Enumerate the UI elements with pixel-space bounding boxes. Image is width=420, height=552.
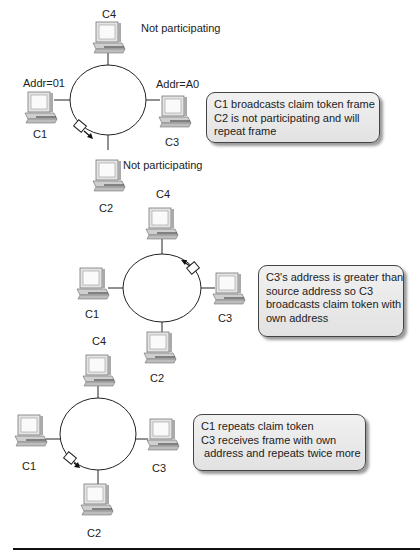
label-c1: C1 bbox=[33, 128, 47, 141]
note-panel-1: C1 broadcasts claim token frame C2 is no… bbox=[206, 92, 380, 143]
computer-c1-icon bbox=[77, 268, 109, 299]
computer-c1-icon bbox=[15, 415, 47, 446]
note-panel-2: C3's address is greater than source addr… bbox=[258, 265, 404, 337]
computer-c3-icon bbox=[213, 273, 245, 304]
label-c2: C2 bbox=[99, 202, 113, 215]
addr-c1: Addr=01 bbox=[23, 77, 65, 90]
computer-c4-icon bbox=[146, 208, 178, 239]
label-c4: C4 bbox=[102, 8, 116, 21]
status-c4: Not participating bbox=[141, 22, 221, 35]
bottom-rule bbox=[13, 548, 420, 550]
computer-c1-icon bbox=[25, 92, 57, 123]
label-c2: C2 bbox=[150, 372, 164, 385]
computer-c2-icon bbox=[144, 332, 176, 363]
note-panel-3: C1 repeats claim token C3 receives frame… bbox=[193, 414, 366, 471]
computer-c2-icon bbox=[93, 160, 125, 191]
token-frame-icon bbox=[74, 120, 87, 133]
label-c4: C4 bbox=[92, 335, 106, 348]
status-c2: Not participating bbox=[123, 159, 203, 172]
computer-c3-icon bbox=[159, 96, 191, 127]
computer-c4-icon bbox=[83, 355, 115, 386]
computer-c4-icon bbox=[93, 22, 125, 53]
label-c3: C3 bbox=[165, 136, 179, 149]
addr-c3: Addr=A0 bbox=[156, 78, 199, 91]
computer-c3-icon bbox=[147, 419, 179, 450]
label-c2: C2 bbox=[87, 527, 101, 540]
label-c1: C1 bbox=[85, 308, 99, 321]
label-c3: C3 bbox=[218, 312, 232, 325]
label-c3: C3 bbox=[152, 462, 166, 475]
label-c1: C1 bbox=[22, 460, 36, 473]
label-c4: C4 bbox=[156, 188, 170, 201]
computer-c2-icon bbox=[81, 484, 113, 515]
